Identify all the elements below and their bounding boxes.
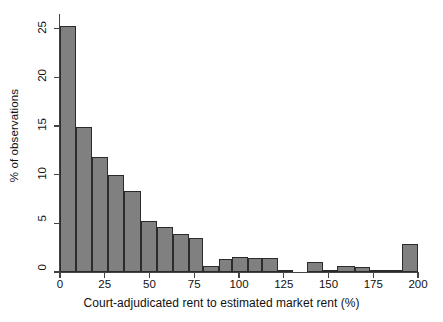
x-tick-label-text: 75 [188, 279, 201, 291]
histogram-bar [323, 270, 337, 272]
y-tick-label-text: 0 [37, 264, 49, 270]
y-tick-mark [54, 174, 59, 175]
histogram-bar [307, 262, 323, 272]
y-tick-label-text: 15 [37, 118, 49, 131]
x-tick-label-text: 200 [408, 279, 427, 291]
x-axis-title: Court-adjudicated rent to estimated mark… [0, 296, 443, 310]
histogram-bar [262, 258, 278, 272]
histogram-bar [370, 270, 402, 272]
histogram-bar [278, 270, 292, 272]
histogram-bar [219, 259, 232, 272]
histogram-bar [402, 244, 418, 272]
y-tick-mark [54, 28, 59, 29]
y-axis-title-label: % of observations [8, 89, 20, 182]
y-tick-mark [54, 77, 59, 78]
histogram-bar [92, 157, 108, 272]
x-axis-title-label: Court-adjudicated rent to estimated mark… [83, 296, 359, 310]
x-tick-label-text: 0 [57, 279, 63, 291]
y-tick-mark [54, 223, 59, 224]
histogram-bar [355, 267, 369, 272]
x-tick-label-text: 175 [364, 279, 383, 291]
histogram-bar [248, 258, 262, 272]
histogram-bar [232, 257, 248, 272]
y-tick-label-text: 10 [37, 167, 49, 180]
histogram-bar [60, 26, 76, 272]
y-tick-label-text: 25 [37, 21, 49, 34]
histogram-bar [203, 266, 219, 272]
histogram-bar [189, 238, 203, 272]
histogram-bar [108, 175, 124, 272]
y-axis-title: % of observations [6, 0, 22, 272]
histogram-bar [124, 191, 140, 272]
x-tick-label-text: 150 [319, 279, 338, 291]
histogram-bar [141, 221, 157, 272]
x-tick-label-text: 25 [98, 279, 111, 291]
y-tick-mark [54, 271, 59, 272]
histogram-bar [173, 234, 189, 272]
histogram-bar [337, 266, 355, 272]
x-tick-label-text: 100 [229, 279, 248, 291]
x-tick-label-text: 125 [274, 279, 293, 291]
y-tick-label-text: 5 [37, 215, 49, 221]
bars-layer [60, 14, 418, 272]
x-tick-label-text: 50 [143, 279, 156, 291]
histogram-bar [157, 227, 173, 272]
y-tick-mark [54, 125, 59, 126]
histogram-figure: % of observations 0510152025025507510012… [0, 0, 443, 322]
y-tick-label-text: 20 [37, 69, 49, 82]
histogram-bar [76, 127, 92, 272]
